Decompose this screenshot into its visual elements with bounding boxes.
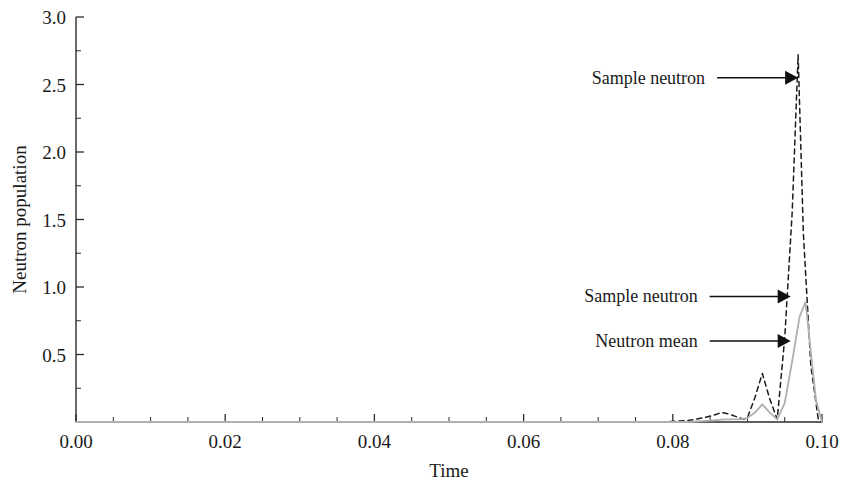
y-tick-label: 2.0 — [42, 142, 66, 163]
annotation-arrow-head — [778, 334, 791, 348]
y-tick-label: 0.5 — [42, 345, 66, 366]
neutron-population-chart: 0.000.020.040.060.080.100.51.01.52.02.53… — [0, 0, 854, 482]
x-tick-label: 0.00 — [59, 431, 92, 452]
y-tick-label: 1.5 — [42, 210, 66, 231]
y-tick-label: 3.0 — [42, 7, 66, 28]
x-tick-label: 0.04 — [358, 431, 392, 452]
annotation-label: Sample neutron — [584, 286, 697, 306]
series-line-sample-neutron — [76, 55, 822, 422]
x-tick-label: 0.06 — [507, 431, 540, 452]
annotation-arrow-head — [785, 71, 798, 85]
data-series — [76, 55, 822, 422]
axes: 0.000.020.040.060.080.100.51.01.52.02.53… — [42, 7, 838, 452]
chart-figure: 0.000.020.040.060.080.100.51.01.52.02.53… — [0, 0, 854, 482]
y-axis-title: Neutron population — [9, 145, 30, 294]
annotation-label: Sample neutron — [592, 68, 705, 88]
x-tick-label: 0.10 — [805, 431, 838, 452]
annotation-label: Neutron mean — [595, 331, 697, 351]
x-axis-title: Time — [429, 460, 468, 481]
series-line-neutron-mean — [76, 302, 822, 422]
annotations: Sample neutronSample neutronNeutron mean — [584, 68, 798, 351]
y-tick-label: 2.5 — [42, 75, 66, 96]
x-tick-label: 0.08 — [656, 431, 689, 452]
x-tick-label: 0.02 — [209, 431, 242, 452]
annotation-arrow-head — [778, 289, 791, 303]
y-tick-label: 1.0 — [42, 277, 66, 298]
